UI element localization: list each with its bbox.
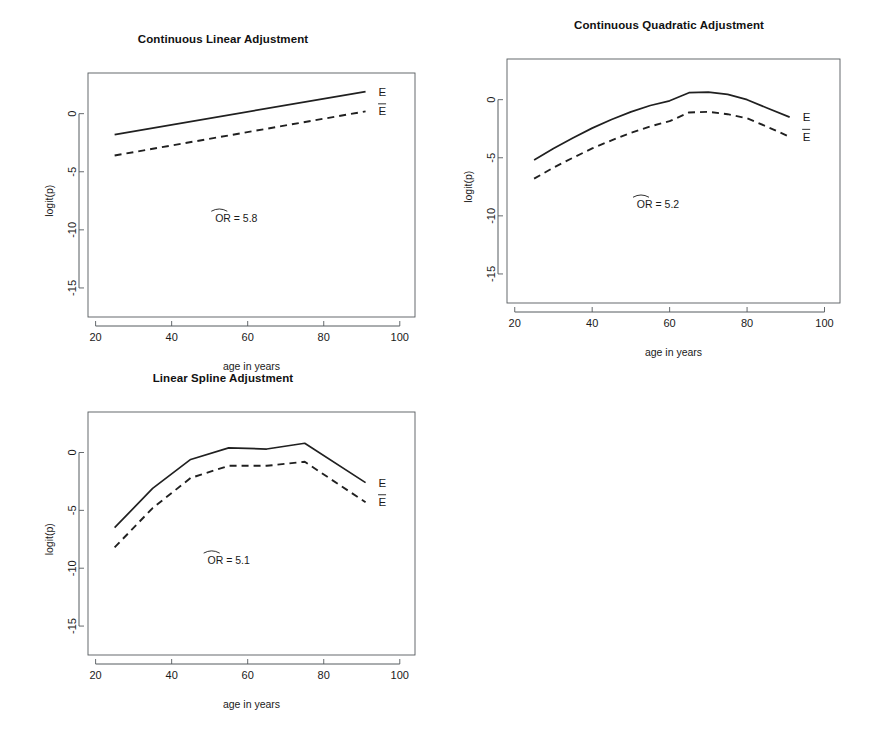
plot-frame <box>507 59 840 303</box>
x-tick-label: 80 <box>318 669 330 681</box>
x-tick-label: 60 <box>242 669 254 681</box>
series-label-unexposed: E <box>379 105 387 117</box>
y-tick-label: -15 <box>66 618 78 634</box>
odds-ratio-annotation: OR = 5.8 <box>215 212 257 224</box>
panel-continuous-linear-adjustment: Continuous Linear Adjustment20406080100a… <box>0 14 446 374</box>
plot-area: 20406080100age in years0-5-10-15logit(p)… <box>0 367 446 735</box>
x-tick-label: 40 <box>166 669 178 681</box>
panel-linear-spline-adjustment: Linear Spline Adjustment20406080100age i… <box>0 367 446 735</box>
odds-ratio-annotation: OR = 5.2 <box>637 198 679 210</box>
x-tick-label: 20 <box>509 317 521 329</box>
series-label-exposed: E <box>803 111 811 123</box>
series-curve-exposed <box>115 443 366 527</box>
x-tick-label: 20 <box>89 331 101 343</box>
y-tick-label: -15 <box>66 280 78 296</box>
y-tick-label: -10 <box>66 222 78 238</box>
odds-ratio-annotation: OR = 5.1 <box>208 554 250 566</box>
series-curve-unexposed <box>115 462 366 548</box>
y-tick-label: -10 <box>485 208 497 224</box>
y-tick-label: -5 <box>485 153 497 163</box>
series-label-unexposed: E <box>803 131 811 143</box>
y-axis-title: logit(p) <box>43 523 55 555</box>
x-tick-label: 80 <box>741 317 753 329</box>
y-tick-label: -10 <box>66 560 78 576</box>
odds-ratio-hat <box>211 209 227 211</box>
series-curve-unexposed <box>534 112 790 179</box>
x-tick-label: 40 <box>166 331 178 343</box>
plot-frame <box>88 73 415 317</box>
y-tick-label: -5 <box>66 505 78 515</box>
y-axis-title: logit(p) <box>462 171 474 203</box>
series-label-exposed: E <box>379 477 387 489</box>
x-tick-label: 100 <box>815 317 833 329</box>
odds-ratio-hat <box>633 195 649 197</box>
series-curve-unexposed <box>115 111 366 155</box>
x-axis-title: age in years <box>645 346 702 358</box>
series-label-unexposed: E <box>379 496 387 508</box>
y-tick-label: 0 <box>66 111 78 117</box>
x-tick-label: 60 <box>242 331 254 343</box>
plot-area: 20406080100age in years0-5-10-15logit(p)… <box>446 14 892 374</box>
x-axis-title: age in years <box>223 698 280 710</box>
x-tick-label: 20 <box>89 669 101 681</box>
x-tick-label: 100 <box>391 331 409 343</box>
x-tick-label: 40 <box>586 317 598 329</box>
panel-continuous-quadratic-adjustment: Continuous Quadratic Adjustment204060801… <box>446 14 892 374</box>
y-tick-label: 0 <box>485 97 497 103</box>
y-axis-title: logit(p) <box>43 185 55 217</box>
series-curve-exposed <box>534 92 790 160</box>
series-curve-exposed <box>115 92 366 135</box>
y-tick-label: -5 <box>66 167 78 177</box>
x-tick-label: 60 <box>664 317 676 329</box>
y-tick-label: -15 <box>485 266 497 282</box>
x-tick-label: 80 <box>318 331 330 343</box>
plot-area: 20406080100age in years0-5-10-15logit(p)… <box>0 14 446 374</box>
y-tick-label: 0 <box>66 449 78 455</box>
series-label-exposed: E <box>379 86 387 98</box>
odds-ratio-hat <box>204 551 220 553</box>
x-tick-label: 100 <box>391 669 409 681</box>
figure-panel-grid: Continuous Linear Adjustment20406080100a… <box>0 0 892 735</box>
